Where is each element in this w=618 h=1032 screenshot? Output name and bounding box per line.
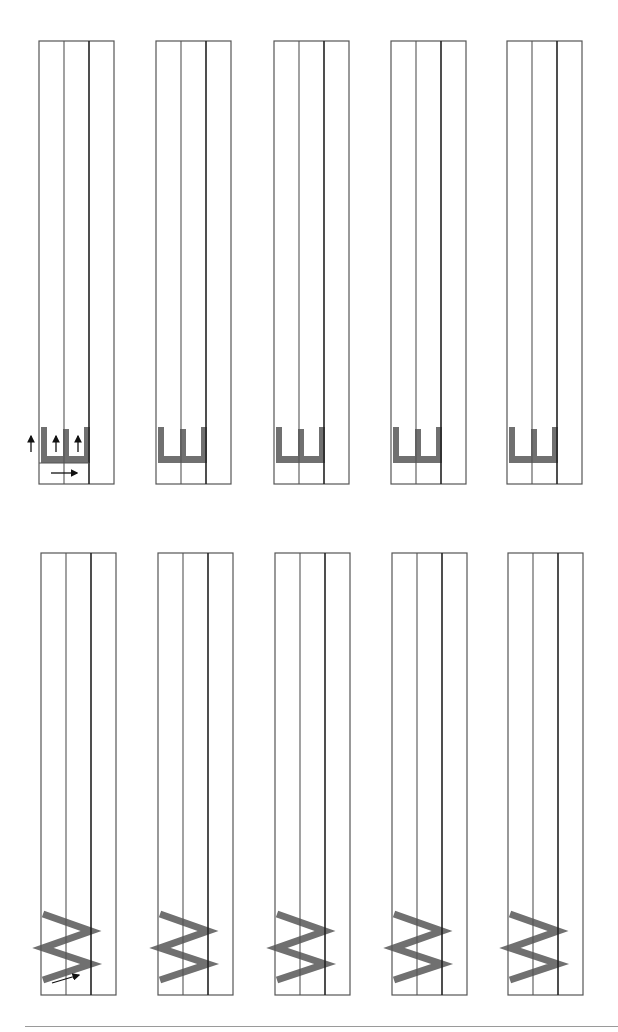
practice-box — [392, 553, 467, 995]
letter-e-glyph — [393, 427, 442, 463]
letter-stroke — [509, 456, 558, 463]
letter-w-glyph — [277, 914, 325, 980]
practice-box — [158, 553, 233, 995]
worksheet-canvas — [0, 0, 618, 1032]
practice-box — [507, 41, 582, 484]
practice-row-w — [41, 553, 583, 995]
letter-stroke — [158, 456, 207, 463]
practice-box — [274, 41, 349, 484]
practice-box — [31, 41, 114, 484]
practice-box — [275, 553, 350, 995]
letter-stroke — [393, 456, 442, 463]
practice-box — [508, 553, 583, 995]
box-outline — [274, 41, 349, 484]
letter-e-glyph — [41, 427, 90, 463]
letter-e-glyph — [158, 427, 207, 463]
box-outline — [39, 41, 114, 484]
letter-stroke — [276, 456, 325, 463]
practice-rows — [31, 41, 583, 995]
box-outline — [156, 41, 231, 484]
practice-box — [41, 553, 116, 995]
box-outline — [507, 41, 582, 484]
practice-box — [391, 41, 466, 484]
letter-e-glyph — [276, 427, 325, 463]
letter-w-glyph — [394, 914, 442, 980]
letter-w-glyph — [510, 914, 558, 980]
letter-e-glyph — [509, 427, 558, 463]
stroke-direction-arrows — [31, 436, 89, 473]
footer-divider — [25, 1026, 618, 1027]
practice-row-e — [31, 41, 582, 484]
box-outline — [391, 41, 466, 484]
letter-stroke — [41, 456, 90, 463]
letter-w-glyph — [43, 914, 91, 980]
letter-w-glyph — [160, 914, 208, 980]
practice-box — [156, 41, 231, 484]
